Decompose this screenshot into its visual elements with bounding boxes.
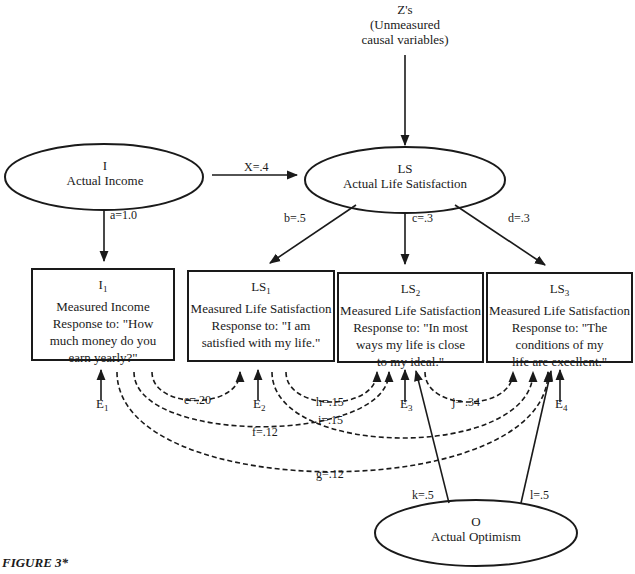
path-label-a: a=1.0 (110, 208, 137, 222)
box-title: Measured Life Satisfaction (189, 300, 333, 317)
income-label: Actual Income (20, 173, 190, 188)
box-line: Response to: "In most (339, 319, 482, 336)
z-desc-1: (Unmeasured (345, 17, 465, 32)
correlation-label-j: j= .34 (452, 395, 480, 409)
correlation-label-f: f=.12 (252, 425, 278, 439)
box-line: conditions of my (488, 336, 631, 353)
arrow-d (455, 205, 545, 265)
box-line: much money do you (33, 332, 173, 349)
correlation-label-h: h=.15 (316, 395, 344, 409)
box-title: Measured Life Satisfaction (488, 302, 631, 319)
optimism-symbol: O (386, 514, 566, 529)
figure-caption: FIGURE 3* (2, 555, 68, 571)
measured-box-ls2: LS2 Measured Life Satisfaction Response … (337, 272, 484, 363)
path-label-k: k=.5 (412, 488, 434, 502)
error-e2: E2 (253, 397, 265, 415)
optimism-node: O Actual Optimism (386, 514, 566, 544)
measured-box-ls1: LS1 Measured Life Satisfaction Response … (187, 270, 335, 362)
error-e3: E3 (400, 397, 412, 415)
box-line: satisfied with my life." (189, 334, 333, 351)
box-line: earn yearly?" (33, 349, 173, 366)
box-line: Response to: "How (33, 315, 173, 332)
income-node: I Actual Income (20, 158, 190, 188)
correlation-label-e: e=.20 (184, 393, 211, 407)
income-symbol: I (20, 158, 190, 173)
path-label-x: X=.4 (244, 160, 268, 174)
box-title: Measured Income (33, 298, 173, 315)
path-label-l: l=.5 (530, 488, 549, 502)
z-label: Z's (Unmeasured causal variables) (345, 2, 465, 47)
box-heading: LS2 (339, 280, 482, 302)
error-e4: E4 (555, 397, 567, 415)
box-line: to my ideal." (339, 353, 482, 370)
z-symbol: Z's (345, 2, 465, 17)
box-line: Response to: "The (488, 319, 631, 336)
box-line: life are excellent." (488, 353, 631, 370)
box-title: Measured Life Satisfaction (339, 302, 482, 319)
life-satisfaction-node: LS Actual Life Satisfaction (315, 161, 495, 191)
box-line: Response to: "I am (189, 317, 333, 334)
box-heading: LS1 (189, 278, 333, 300)
box-heading: I1 (33, 276, 173, 298)
ls-label: Actual Life Satisfaction (315, 176, 495, 191)
arrow-l (521, 371, 551, 503)
correlation-label-g: g=.12 (316, 467, 344, 481)
path-label-b: b=.5 (284, 211, 306, 225)
measured-box-ls3: LS3 Measured Life Satisfaction Response … (486, 272, 633, 363)
measured-box-i1: I1 Measured Income Response to: "How muc… (31, 268, 175, 361)
error-e1: E1 (96, 397, 108, 415)
ls-symbol: LS (315, 161, 495, 176)
path-label-d: d=.3 (508, 211, 530, 225)
z-desc-2: causal variables) (345, 32, 465, 47)
arrow-b (270, 205, 356, 263)
optimism-label: Actual Optimism (386, 529, 566, 544)
correlation-label-i: i=.15 (318, 413, 343, 427)
box-line: ways my life is close (339, 336, 482, 353)
path-label-c: c=.3 (412, 211, 433, 225)
box-heading: LS3 (488, 280, 631, 302)
